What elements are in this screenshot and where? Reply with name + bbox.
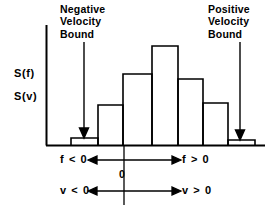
v-arrow-head-right xyxy=(172,187,181,195)
histogram-bar-1 xyxy=(71,138,98,145)
callout-arrows xyxy=(80,42,245,140)
zero-label: 0 xyxy=(119,168,125,180)
histogram-bar-6 xyxy=(203,103,228,145)
f-arrow-head-left xyxy=(88,156,97,164)
histogram-bar-4 xyxy=(152,46,178,145)
histogram-bar-2 xyxy=(98,105,123,145)
negative-bound-arrow-head xyxy=(80,128,89,138)
f-positive-label: f > 0 xyxy=(182,153,210,166)
positive-velocity-bound-label: Positive Velocity Bound xyxy=(208,3,250,40)
f-negative-label: f < 0 xyxy=(60,153,88,166)
histogram-bar-7 xyxy=(228,140,255,145)
y-axis-label-sf: S(f) xyxy=(14,67,35,80)
v-double-arrow xyxy=(88,187,181,195)
v-positive-label: v > 0 xyxy=(182,184,212,197)
histogram-bars xyxy=(71,46,255,145)
f-arrow-head-right xyxy=(172,156,181,164)
v-negative-label: v < 0 xyxy=(60,184,90,197)
histogram-bar-3 xyxy=(123,74,152,145)
histogram-bar-5 xyxy=(178,79,203,145)
positive-bound-arrow-head xyxy=(236,130,245,140)
y-axis-label-sv: S(v) xyxy=(14,90,37,103)
f-double-arrow xyxy=(88,156,181,164)
negative-velocity-bound-label: Negative Velocity Bound xyxy=(60,3,105,40)
